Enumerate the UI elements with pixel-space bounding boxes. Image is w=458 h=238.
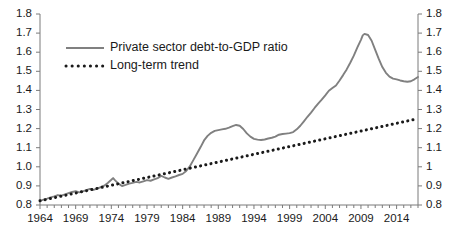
y-axis-right-tick-label: 1.7 — [426, 27, 442, 38]
y-axis-right-tick-label: 1.5 — [426, 65, 442, 76]
y-axis-left-tick-label: 1.0 — [0, 161, 32, 172]
y-axis-right-tick-label: 1 — [426, 161, 432, 172]
x-axis-tick-label: 2014 — [375, 213, 419, 224]
y-axis-left-tick-label: 1.5 — [0, 65, 32, 76]
y-axis-right-tick-label: 1.4 — [426, 84, 442, 95]
y-axis-right-tick-label: 1.1 — [426, 142, 442, 153]
series-line-2 — [40, 119, 418, 201]
y-axis-right-tick-label: 0.9 — [426, 180, 442, 191]
y-axis-left-tick-label: 0.9 — [0, 180, 32, 191]
y-axis-right-tick-label: 1.2 — [426, 123, 442, 134]
y-axis-left-tick-label: 0.8 — [0, 199, 32, 210]
y-axis-left-tick-label: 1.3 — [0, 104, 32, 115]
y-axis-left-tick-label: 1.6 — [0, 46, 32, 57]
y-axis-left-tick-label: 1.8 — [0, 8, 32, 19]
legend-label-private-sector-debt: Private sector debt-to-GDP ratio — [110, 41, 288, 54]
y-axis-left-tick-label: 1.4 — [0, 84, 32, 95]
legend-label-long-term-trend: Long-term trend — [110, 59, 199, 72]
y-axis-right-tick-label: 1.3 — [426, 104, 442, 115]
y-axis-left-tick-label: 1.7 — [0, 27, 32, 38]
y-axis-right-tick-label: 0.8 — [426, 199, 442, 210]
y-axis-left-tick-label: 1.1 — [0, 142, 32, 153]
y-axis-right-tick-label: 1.6 — [426, 46, 442, 57]
y-axis-right-tick-label: 1.8 — [426, 8, 442, 19]
series-line-1 — [40, 34, 418, 201]
chart-container: 1.81.71.61.51.41.31.21.11.00.90.8 1.81.7… — [0, 0, 458, 238]
y-axis-left-tick-label: 1.2 — [0, 123, 32, 134]
chart-plot-area — [0, 0, 458, 238]
